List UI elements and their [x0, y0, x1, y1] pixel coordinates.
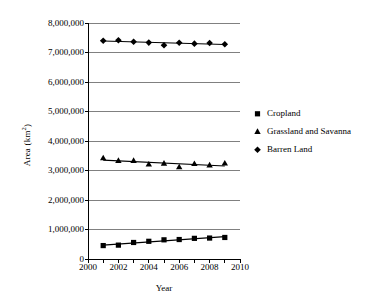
data-point	[176, 164, 182, 170]
legend-item-label: Grassland and Savanna	[267, 126, 351, 137]
data-point	[207, 235, 212, 240]
data-point	[146, 39, 153, 46]
legend-item[interactable]: Cropland	[252, 104, 376, 122]
legend-item-label: Cropland	[267, 108, 301, 119]
data-point	[115, 157, 121, 163]
data-point	[146, 239, 151, 244]
y-axis-tick-label: 4,000,000	[18, 137, 84, 146]
data-point	[116, 243, 121, 248]
data-point	[192, 236, 197, 241]
y-axis-tick-label: 2,000,000	[18, 196, 84, 205]
data-point	[130, 157, 136, 163]
data-point	[222, 41, 229, 48]
data-point	[161, 237, 166, 242]
chart-figure: Area (km2) 01,000,0002,000,0003,000,0004…	[0, 0, 376, 306]
data-point	[176, 39, 183, 46]
y-axis-tick-label: 6,000,000	[18, 78, 84, 87]
chart-legend: CroplandGrassland and SavannaBarren Land	[252, 104, 376, 158]
x-axis-tick-labels: 200020022004200620082010	[0, 262, 376, 276]
data-point	[191, 160, 197, 166]
legend-item-label: Barren Land	[267, 144, 312, 155]
y-axis-tick-label: 7,000,000	[18, 48, 84, 57]
data-point	[100, 37, 107, 44]
square-marker-icon	[252, 108, 263, 119]
data-point	[222, 235, 227, 240]
data-point	[222, 160, 228, 166]
y-axis-tick-label: 3,000,000	[18, 166, 84, 175]
data-point	[191, 40, 198, 47]
series-barren-land	[100, 37, 228, 49]
plot-area	[88, 23, 240, 259]
data-point	[130, 38, 137, 45]
y-axis-tick-label: 1,000,000	[18, 225, 84, 234]
series-grassland-and-savanna	[100, 155, 228, 170]
legend-item[interactable]: Grassland and Savanna	[252, 122, 376, 140]
data-point	[100, 155, 106, 161]
data-point	[177, 237, 182, 242]
data-point	[101, 243, 106, 248]
data-point	[131, 240, 136, 245]
y-axis-tick-labels: 01,000,0002,000,0003,000,0004,000,0005,0…	[18, 0, 84, 306]
x-axis-title: Year	[88, 283, 240, 293]
plot-svg	[88, 23, 240, 259]
data-point	[206, 40, 213, 47]
triangle-marker-icon	[252, 126, 263, 137]
x-axis-tick-label: 2010	[220, 262, 260, 272]
legend-item[interactable]: Barren Land	[252, 140, 376, 158]
y-axis-tick-label: 8,000,000	[18, 19, 84, 28]
diamond-marker-icon	[252, 144, 263, 155]
y-axis-tick-label: 5,000,000	[18, 107, 84, 116]
data-point	[115, 37, 122, 44]
series-cropland	[101, 235, 228, 248]
